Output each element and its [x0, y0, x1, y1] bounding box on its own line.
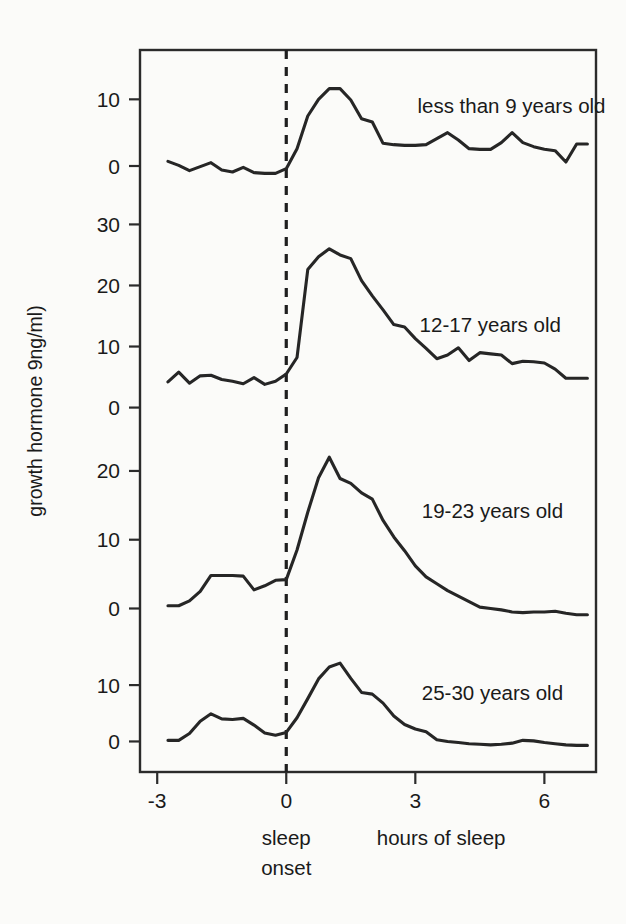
y-axis-tick-label: 10 — [97, 88, 120, 111]
x-axis-tick-label: 6 — [539, 789, 551, 812]
x-axis-tick-label: 0 — [280, 789, 292, 812]
y-axis-tick-label: 0 — [108, 155, 120, 178]
y-axis-tick-label: 10 — [97, 528, 120, 551]
y-axis-tick-label: 30 — [97, 213, 120, 236]
x-axis-tick-label: -3 — [148, 789, 167, 812]
series-label-3: 19-23 years old — [422, 499, 563, 522]
chart-svg: 010010203001020010 -3036 less than 9 yea… — [0, 0, 626, 924]
growth-hormone-sleep-figure: 010010203001020010 -3036 less than 9 yea… — [0, 0, 626, 924]
y-axis-tick-label: 0 — [108, 730, 120, 753]
y-axis-tick-label: 20 — [97, 459, 120, 482]
y-axis-tick-label: 10 — [97, 674, 120, 697]
figure-background — [0, 0, 626, 924]
y-axis-title: growth hormone 9ng/ml) — [24, 305, 46, 516]
y-axis-tick-label: 0 — [108, 597, 120, 620]
x-axis-tick-label: 3 — [409, 789, 421, 812]
sleep-onset-label-line2: onset — [261, 856, 311, 879]
y-axis-tick-label: 10 — [97, 335, 120, 358]
series-label-2: 12-17 years old — [420, 313, 561, 336]
y-axis-tick-label: 0 — [108, 396, 120, 419]
series-label-1: less than 9 years old — [417, 94, 605, 117]
y-axis-title-group: growth hormone 9ng/ml) — [24, 305, 46, 516]
sleep-onset-label-line1: sleep — [262, 826, 311, 849]
series-label-4: 25-30 years old — [422, 681, 563, 704]
y-axis-tick-label: 20 — [97, 274, 120, 297]
x-axis-title: hours of sleep — [377, 826, 506, 849]
